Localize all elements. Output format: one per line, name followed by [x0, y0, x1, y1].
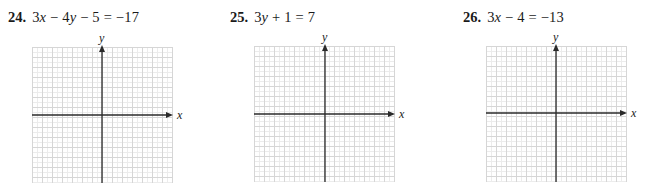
- x-axis-arrow-icon: [620, 110, 627, 116]
- coordinate-grid[interactable]: xy: [486, 34, 636, 184]
- problem-label: 26.3x − 4 = −13: [463, 9, 564, 26]
- y-axis-label: y: [321, 30, 328, 44]
- problem-number: 24.: [8, 9, 26, 25]
- y-axis-arrow-icon: [322, 44, 328, 51]
- problem-number: 26.: [463, 9, 481, 25]
- problem-equation: 3y + 1 = 7: [254, 9, 315, 25]
- x-axis-label: x: [176, 108, 183, 122]
- y-axis-arrow-icon: [553, 44, 559, 51]
- problem-equation: 3x − 4 = −13: [487, 9, 564, 25]
- y-axis-arrow-icon: [99, 45, 105, 52]
- y-axis-label: y: [98, 31, 105, 45]
- coordinate-grid[interactable]: xy: [254, 34, 404, 184]
- coordinate-grid[interactable]: xy: [32, 35, 182, 185]
- x-axis-label: x: [630, 106, 637, 120]
- problem-equation: 3x − 4y − 5 = −17: [32, 9, 139, 25]
- x-axis-label: x: [398, 107, 405, 121]
- problem-number: 25.: [230, 9, 248, 25]
- problem-label: 25.3y + 1 = 7: [230, 9, 315, 26]
- y-axis-label: y: [552, 30, 559, 44]
- problem-label: 24.3x − 4y − 5 = −17: [8, 9, 139, 26]
